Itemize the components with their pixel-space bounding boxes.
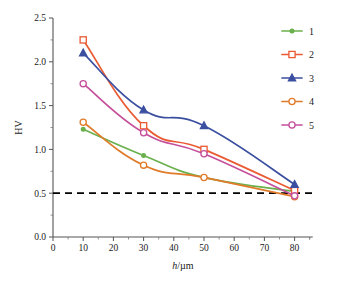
- series-5: [80, 81, 298, 199]
- series-5-marker-circle: [201, 151, 207, 157]
- x-tick-label: 30: [139, 243, 149, 253]
- legend-label-4: 4: [309, 96, 314, 107]
- y-tick-label: 0.5: [34, 189, 46, 199]
- series-group: [80, 37, 299, 200]
- legend-label-1: 1: [309, 26, 314, 37]
- legend-5-marker-circle: [289, 122, 295, 128]
- series-3-marker-triangle: [291, 180, 298, 187]
- legend-item-3[interactable]: 3: [282, 73, 314, 84]
- y-tick-label: 2.5: [34, 13, 46, 23]
- series-4-line: [83, 122, 294, 196]
- series-2-marker-square: [141, 123, 147, 129]
- series-5-marker-circle: [292, 193, 298, 199]
- series-1-marker-dot: [142, 154, 146, 158]
- legend-label-3: 3: [309, 73, 314, 84]
- series-5-marker-circle: [80, 81, 86, 87]
- series-2-marker-square: [80, 37, 86, 43]
- series-3-line: [83, 53, 294, 184]
- series-3: [80, 49, 299, 187]
- x-tick-label: 70: [260, 243, 270, 253]
- series-1-marker-dot: [81, 127, 85, 131]
- series-1-line: [83, 129, 294, 191]
- series-4-marker-circle: [80, 119, 86, 125]
- legend-item-5[interactable]: 5: [282, 120, 314, 131]
- series-1: [81, 127, 296, 193]
- chart-container: 0.00.51.01.52.02.501020304050607080h/µmH…: [0, 0, 360, 283]
- x-tick-label: 80: [290, 243, 300, 253]
- series-3-marker-triangle: [80, 49, 87, 56]
- series-3-marker-triangle: [140, 106, 147, 113]
- x-tick-label: 20: [109, 243, 119, 253]
- series-2: [80, 37, 298, 194]
- y-tick-label: 1.5: [34, 101, 46, 111]
- series-5-marker-circle: [141, 130, 147, 136]
- x-tick-label: 0: [51, 243, 56, 253]
- legend-label-5: 5: [309, 120, 314, 131]
- legend-2-marker-square: [289, 51, 295, 57]
- x-tick-label: 60: [229, 243, 239, 253]
- x-axis-title: h/µm: [172, 260, 194, 271]
- legend-1-marker-dot: [290, 29, 294, 33]
- axes-group: 0.00.51.01.52.02.501020304050607080: [34, 13, 313, 253]
- legend: 12345: [282, 26, 314, 131]
- y-axis-title: HV: [13, 120, 24, 135]
- legend-4-marker-circle: [289, 98, 295, 104]
- y-tick-label: 2.0: [34, 57, 46, 67]
- legend-item-1[interactable]: 1: [282, 26, 314, 37]
- legend-item-2[interactable]: 2: [282, 49, 314, 60]
- y-tick-label: 0.0: [34, 232, 46, 242]
- line-chart: 0.00.51.01.52.02.501020304050607080h/µmH…: [0, 0, 360, 283]
- legend-item-4[interactable]: 4: [282, 96, 314, 107]
- series-5-line: [83, 84, 294, 196]
- legend-label-2: 2: [309, 49, 314, 60]
- series-4-marker-circle: [141, 162, 147, 168]
- series-4-marker-circle: [201, 174, 207, 180]
- series-2-line: [83, 40, 294, 191]
- x-axis-title-unit: /µm: [177, 260, 194, 271]
- y-tick-label: 1.0: [34, 145, 46, 155]
- x-tick-label: 40: [169, 243, 179, 253]
- x-tick-label: 10: [78, 243, 88, 253]
- x-tick-label: 50: [199, 243, 209, 253]
